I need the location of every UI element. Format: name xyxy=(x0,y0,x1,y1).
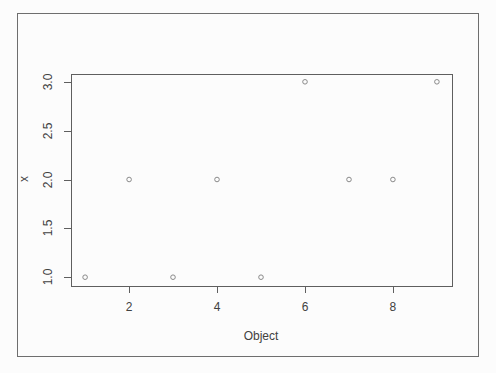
x-axis-label: Object xyxy=(244,329,279,343)
y-axis-label: x xyxy=(17,176,31,182)
scatter-plot-figure: 24681.01.52.02.53.0 Object x xyxy=(0,0,496,373)
x-axis-tick-label: 8 xyxy=(390,300,397,314)
y-axis-tick xyxy=(64,228,71,229)
x-axis-tick-label: 6 xyxy=(302,300,309,314)
y-axis-tick-label: 3.0 xyxy=(41,73,55,90)
y-axis-tick xyxy=(64,180,71,181)
y-axis-tick xyxy=(64,82,71,83)
y-axis-tick xyxy=(64,131,71,132)
y-axis-tick xyxy=(64,277,71,278)
x-axis-tick xyxy=(305,286,306,293)
x-axis-tick xyxy=(217,286,218,293)
y-axis-tick-label: 1.5 xyxy=(41,220,55,237)
x-axis-tick xyxy=(393,286,394,293)
x-axis-tick xyxy=(129,286,130,293)
y-axis-tick-label: 2.0 xyxy=(41,171,55,188)
x-axis-tick-label: 2 xyxy=(126,300,133,314)
y-axis-tick-label: 1.0 xyxy=(41,269,55,286)
x-axis-tick-label: 4 xyxy=(214,300,221,314)
y-axis-tick-label: 2.5 xyxy=(41,122,55,139)
plot-area xyxy=(71,74,453,287)
